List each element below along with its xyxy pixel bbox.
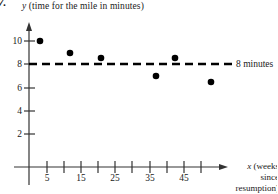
x-tick-label: 15 [73,173,89,183]
data-point [153,73,160,80]
y-tick-label: 2 [8,129,22,139]
y-tick-label: 4 [8,106,22,116]
y-tick-label: 8 [8,59,22,69]
data-point [37,38,44,45]
data-point [172,55,179,62]
y-tick-label: 6 [8,83,22,93]
data-point [67,50,74,57]
data-point [98,55,105,62]
data-point [208,79,215,86]
x-axis-caption: x (weeks since resumption) [229,161,277,194]
x-tick-label: 45 [176,173,192,183]
x-tick-label: 35 [142,173,158,183]
x-axis-caption-line1: (weeks since [251,161,277,182]
x-axis-caption-line2: resumption) [236,183,278,193]
y-axis [26,22,32,185]
x-axis [14,164,228,170]
reference-line-label: 8 minutes [236,59,273,69]
x-tick-label: 25 [107,173,123,183]
figure-canvas: 7. y (time for the mile in minutes) [0,0,277,194]
x-tick-label: 5 [39,173,55,183]
y-tick-label: 10 [8,36,22,46]
data-points [37,38,215,86]
